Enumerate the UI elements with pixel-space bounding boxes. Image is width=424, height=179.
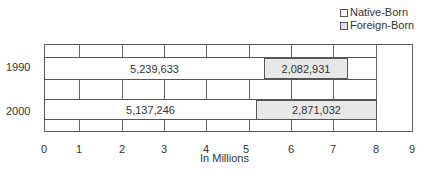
bar-1990-native-born: 5,239,633 bbox=[44, 57, 265, 80]
bar-value-label: 5,239,633 bbox=[130, 63, 179, 75]
bar-2000-native-born: 5,137,246 bbox=[44, 99, 257, 120]
x-tick-1: 1 bbox=[76, 143, 82, 155]
chart-area: 5,239,633 2,082,931 5,137,246 2,871,032 … bbox=[0, 0, 424, 179]
bar-value-label: 5,137,246 bbox=[126, 104, 175, 116]
x-tick-6: 6 bbox=[288, 143, 294, 155]
x-tick-9: 9 bbox=[409, 143, 415, 155]
grid-line bbox=[44, 131, 412, 132]
x-axis-label: In Millions bbox=[200, 152, 249, 164]
bar-value-label: 2,082,931 bbox=[282, 63, 331, 75]
x-tick-2: 2 bbox=[119, 143, 125, 155]
x-tick-8: 8 bbox=[373, 143, 379, 155]
x-tick-3: 3 bbox=[161, 143, 167, 155]
bar-value-label: 2,871,032 bbox=[292, 104, 341, 116]
grid-line bbox=[412, 44, 413, 132]
y-label-2000: 2000 bbox=[6, 105, 30, 117]
bar-2000-foreign-born: 2,871,032 bbox=[256, 100, 377, 120]
bar-1990-foreign-born: 2,082,931 bbox=[264, 58, 348, 79]
x-tick-7: 7 bbox=[330, 143, 336, 155]
y-label-1990: 1990 bbox=[6, 61, 30, 73]
grid-line bbox=[44, 44, 412, 45]
x-tick-0: 0 bbox=[41, 143, 47, 155]
